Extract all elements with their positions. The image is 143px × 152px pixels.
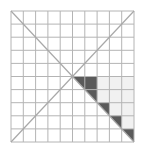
grid-diagram [0,0,143,152]
